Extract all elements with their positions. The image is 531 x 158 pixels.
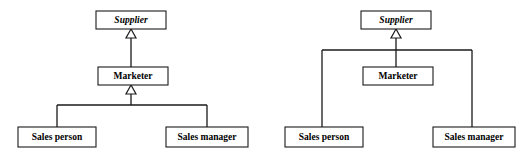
diagram-canvas: Supplier Marketer Sales person Sales man… [0,0,531,158]
class-name-marketer: Marketer [113,71,153,81]
class-name-sales-person: Sales person [32,132,83,142]
class-box-marketer-right[interactable]: Marketer [363,67,433,85]
class-box-sales-manager-right[interactable]: Sales manager [433,127,515,147]
class-name-sales-person: Sales person [299,132,350,142]
class-box-sales-manager-left[interactable]: Sales manager [166,127,248,147]
class-box-sales-person-left[interactable]: Sales person [18,127,96,147]
class-box-marketer-left[interactable]: Marketer [98,67,168,85]
left-diagram: Supplier Marketer Sales person Sales man… [18,11,248,147]
class-name-marketer: Marketer [378,71,418,81]
class-name-sales-manager: Sales manager [178,132,238,142]
class-box-supplier-right[interactable]: Supplier [361,11,431,29]
hollow-triangle-arrowhead-icon [391,29,401,38]
class-name-sales-manager: Sales manager [445,132,505,142]
generalization-tree-to-marketer-left [57,85,207,127]
hollow-triangle-arrowhead-icon [126,85,136,94]
class-box-sales-person-right[interactable]: Sales person [285,127,363,147]
class-name-supplier: Supplier [379,15,413,25]
right-diagram: Supplier Marketer Sales person Sales man… [285,11,515,147]
class-box-supplier-left[interactable]: Supplier [96,11,166,29]
hollow-triangle-arrowhead-icon [126,29,136,38]
generalization-marketer-to-supplier-left [126,29,136,67]
class-name-supplier: Supplier [114,15,148,25]
uml-diagram-pair: Supplier Marketer Sales person Sales man… [0,0,531,158]
